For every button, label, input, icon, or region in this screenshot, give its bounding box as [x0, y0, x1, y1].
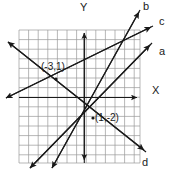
line-label-b: b — [143, 1, 149, 12]
point-marker-neg3-1 — [54, 77, 57, 80]
coordinate-plane-figure: Y X b c a d (-3,1) (1,-2) — [0, 0, 174, 181]
grid-lines — [19, 30, 140, 163]
point-label-1-neg2: (1,-2) — [95, 113, 119, 123]
axis-label-y: Y — [80, 2, 87, 13]
axis-label-x: X — [152, 85, 159, 96]
line-c — [6, 26, 153, 98]
coordinate-plane-svg — [0, 0, 174, 181]
point-label-neg3-1: (-3,1) — [41, 62, 65, 72]
line-label-d: d — [142, 157, 148, 168]
line-label-a: a — [159, 46, 165, 57]
line-label-c: c — [159, 16, 165, 27]
